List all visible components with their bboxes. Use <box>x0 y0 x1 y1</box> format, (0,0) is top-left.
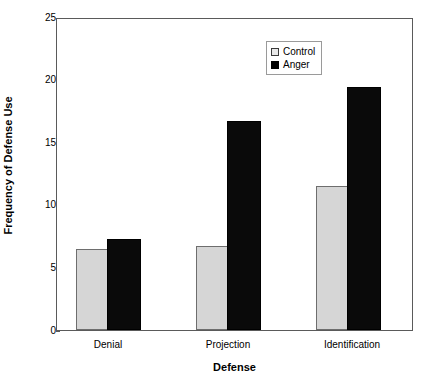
x-tick-label-denial: Denial <box>68 339 148 351</box>
y-tick-label-25: 25 <box>8 13 56 23</box>
bar-identification-anger <box>347 87 381 330</box>
anger-swatch-icon <box>271 61 279 69</box>
bar-denial-control <box>76 249 108 330</box>
y-axis-tick-labels: 25 20 15 10 5 0 <box>0 0 56 385</box>
y-tick-mark-0 <box>56 331 60 332</box>
legend-label-anger: Anger <box>283 59 310 70</box>
bars-layer <box>57 19 412 330</box>
x-tick-label-projection: Projection <box>188 339 268 351</box>
bar-projection-anger <box>227 121 261 330</box>
control-swatch-icon <box>271 48 279 56</box>
chart-legend: Control Anger <box>266 41 322 75</box>
legend-label-control: Control <box>283 46 315 57</box>
bar-denial-anger <box>107 239 141 330</box>
x-tick-label-identification: Identification <box>305 339 399 351</box>
legend-item-anger: Anger <box>271 58 315 71</box>
y-tick-label-10: 10 <box>8 200 56 210</box>
bar-projection-control <box>196 246 228 330</box>
y-tick-label-5: 5 <box>8 263 56 273</box>
bar-identification-control <box>316 186 348 330</box>
x-axis-title: Defense <box>56 361 413 373</box>
y-tick-label-0: 0 <box>8 326 56 336</box>
bar-chart-figure: Frequency of Defense Use 25 20 15 10 5 0… <box>0 0 428 385</box>
y-tick-label-15: 15 <box>8 138 56 148</box>
y-tick-label-20: 20 <box>8 75 56 85</box>
legend-item-control: Control <box>271 45 315 58</box>
